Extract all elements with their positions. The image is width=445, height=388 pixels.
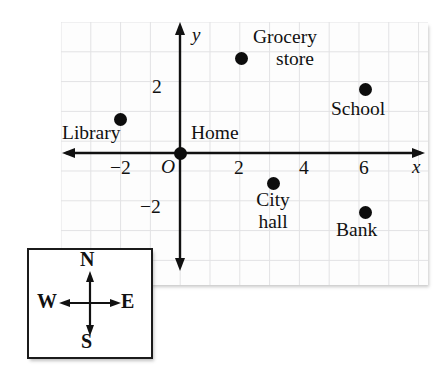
label-city-hall-line2: hall — [244, 211, 302, 233]
label-grocery-store-line1: Grocery — [253, 26, 345, 48]
label-city-hall: City hall — [244, 189, 302, 232]
x-tick-label-neg2: −2 — [110, 157, 131, 179]
point-city-hall[interactable] — [267, 177, 280, 190]
y-tick-label-neg2: −2 — [140, 196, 161, 218]
label-home: Home — [191, 122, 239, 143]
compass-arrow-east — [110, 299, 121, 307]
label-grocery-store: Grocery store — [253, 26, 345, 69]
label-school: School — [331, 98, 385, 119]
figure-canvas: y x O −2 2 4 6 2 −2 Library Home Grocery… — [0, 0, 445, 388]
point-school[interactable] — [359, 83, 372, 96]
compass-rose: N S E W — [27, 248, 153, 359]
compass-arrow-west — [59, 299, 70, 307]
point-home[interactable] — [174, 147, 187, 160]
compass-label-east: E — [121, 290, 134, 313]
x-axis-label: x — [412, 156, 420, 178]
point-bank[interactable] — [359, 206, 372, 219]
y-axis-label: y — [192, 24, 200, 46]
compass-label-north: N — [80, 248, 94, 271]
x-tick-label-6: 6 — [359, 157, 369, 179]
compass-arrow-north — [86, 271, 94, 282]
label-grocery-store-line2: store — [253, 48, 345, 70]
x-tick-label-2: 2 — [234, 157, 244, 179]
origin-label: O — [161, 156, 175, 178]
label-bank: Bank — [336, 219, 377, 240]
label-library: Library — [62, 122, 120, 143]
label-city-hall-line1: City — [244, 189, 302, 211]
compass-label-west: W — [37, 290, 57, 313]
compass-label-south: S — [81, 330, 92, 353]
y-tick-label-2: 2 — [152, 76, 162, 98]
point-grocery-store[interactable] — [235, 52, 248, 65]
x-tick-label-4: 4 — [299, 157, 309, 179]
